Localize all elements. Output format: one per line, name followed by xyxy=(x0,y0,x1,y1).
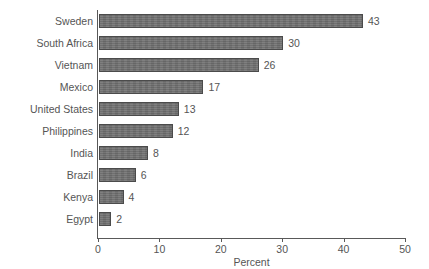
x-axis-tick-label: 40 xyxy=(324,243,364,255)
bar-row: Egypt2 xyxy=(98,208,405,230)
bar-row: Kenya4 xyxy=(98,186,405,208)
category-label: Vietnam xyxy=(0,54,93,76)
bar-row: United States13 xyxy=(98,98,405,120)
bar-value-label: 43 xyxy=(368,14,380,28)
bar xyxy=(99,124,173,138)
x-axis-tick-label: 20 xyxy=(201,243,241,255)
bar-value-label: 8 xyxy=(153,146,159,160)
x-axis-tick xyxy=(344,238,345,242)
x-axis-tick xyxy=(98,238,99,242)
plot-area: Sweden43South Africa30Vietnam26Mexico17U… xyxy=(98,10,405,238)
bar-value-label: 4 xyxy=(129,190,135,204)
x-axis-tick-label: 50 xyxy=(385,243,425,255)
bar xyxy=(99,14,363,28)
bar xyxy=(99,190,124,204)
bar-value-label: 26 xyxy=(264,58,276,72)
bar xyxy=(99,36,283,50)
x-axis-tick xyxy=(221,238,222,242)
bar-row: Mexico17 xyxy=(98,76,405,98)
bar-row: Philippines12 xyxy=(98,120,405,142)
x-axis-line xyxy=(97,238,406,239)
category-label: Kenya xyxy=(0,186,93,208)
x-axis-tick-label: 30 xyxy=(262,243,302,255)
bar xyxy=(99,146,148,160)
bar-row: India8 xyxy=(98,142,405,164)
x-axis-tick-label: 10 xyxy=(139,243,179,255)
bar-row: Vietnam26 xyxy=(98,54,405,76)
category-label: Philippines xyxy=(0,120,93,142)
bar-value-label: 6 xyxy=(141,168,147,182)
bar-value-label: 13 xyxy=(184,102,196,116)
bar xyxy=(99,212,111,226)
bar xyxy=(99,102,179,116)
bar xyxy=(99,80,203,94)
x-axis-tick xyxy=(159,238,160,242)
bar-row: South Africa30 xyxy=(98,32,405,54)
category-label: South Africa xyxy=(0,32,93,54)
bar-value-label: 12 xyxy=(178,124,190,138)
category-label: India xyxy=(0,142,93,164)
bar-row: Sweden43 xyxy=(98,10,405,32)
bar-chart: Sweden43South Africa30Vietnam26Mexico17U… xyxy=(0,0,429,269)
bar-row: Brazil6 xyxy=(98,164,405,186)
category-label: Sweden xyxy=(0,10,93,32)
x-axis-title: Percent xyxy=(97,256,406,268)
x-axis-tick xyxy=(282,238,283,242)
bar xyxy=(99,168,136,182)
category-label: Brazil xyxy=(0,164,93,186)
bar-value-label: 30 xyxy=(288,36,300,50)
category-label: Egypt xyxy=(0,208,93,230)
bar-value-label: 2 xyxy=(116,212,122,226)
x-axis-tick-label: 0 xyxy=(78,243,118,255)
category-label: United States xyxy=(0,98,93,120)
bar xyxy=(99,58,259,72)
bar-value-label: 17 xyxy=(208,80,220,94)
x-axis-tick xyxy=(405,238,406,242)
category-label: Mexico xyxy=(0,76,93,98)
